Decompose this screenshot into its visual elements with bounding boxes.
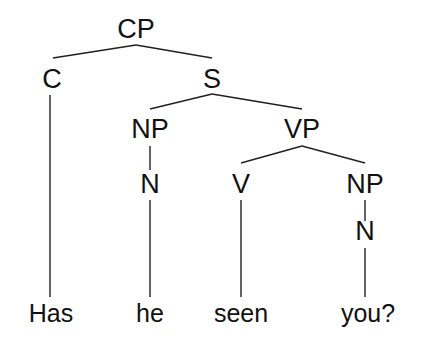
node-np-subject: NP [131, 114, 169, 144]
leaf-word: Has [29, 299, 73, 327]
node-c: C [42, 64, 62, 94]
tree-leaf-labels: Has he seen you? [29, 299, 395, 327]
edge-s-to-np [150, 94, 212, 109]
edge-vp-to-v [241, 146, 302, 163]
tree-node-labels: CP C S NP VP N V NP N [42, 14, 384, 246]
edge-cp-to-c [53, 45, 136, 58]
leaf-word: you? [341, 299, 395, 327]
node-n-subject: N [140, 169, 160, 199]
node-vp: VP [284, 114, 320, 144]
node-cp: CP [117, 14, 155, 44]
edge-vp-to-np [302, 146, 365, 163]
edge-cp-to-s [136, 45, 212, 58]
edge-s-to-vp [212, 94, 302, 109]
node-v: V [232, 169, 250, 199]
leaf-word: he [136, 299, 164, 327]
node-n-object: N [355, 216, 375, 246]
node-np-object: NP [346, 169, 384, 199]
syntax-tree-figure: CP C S NP VP N V NP N Has he seen you? [0, 0, 421, 350]
node-s: S [203, 64, 221, 94]
syntax-tree-canvas: CP C S NP VP N V NP N Has he seen you? [0, 0, 421, 350]
leaf-word: seen [214, 299, 268, 327]
